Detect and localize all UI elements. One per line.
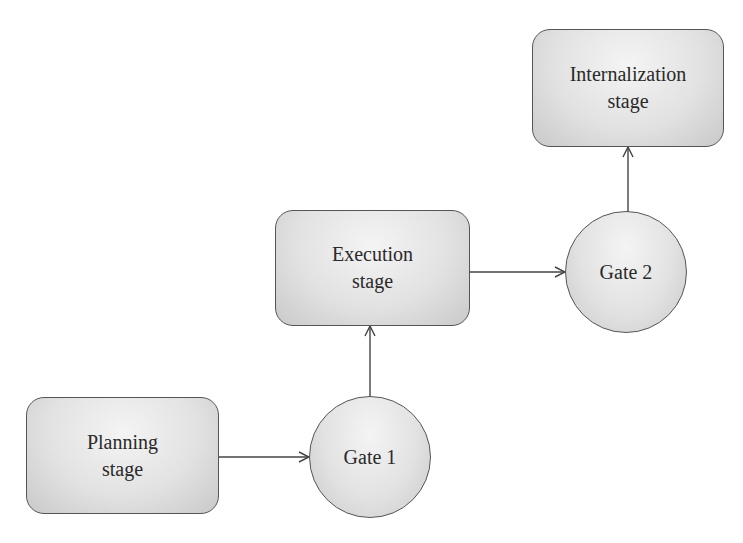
gate-2-label: Gate 2 bbox=[600, 259, 653, 286]
internalization-stage-label-line2: stage bbox=[607, 88, 648, 115]
execution-stage-label-line2: stage bbox=[352, 268, 393, 295]
gate-1-label: Gate 1 bbox=[344, 444, 397, 471]
planning-stage-label-line1: Planning bbox=[87, 429, 158, 456]
planning-stage-label-line2: stage bbox=[102, 456, 143, 483]
execution-stage-label-line1: Execution bbox=[332, 241, 413, 268]
internalization-stage-node: Internalization stage bbox=[532, 29, 724, 147]
execution-stage-node: Execution stage bbox=[275, 210, 470, 326]
gate-2-node: Gate 2 bbox=[565, 211, 687, 333]
internalization-stage-label-line1: Internalization bbox=[570, 61, 687, 88]
gate-1-node: Gate 1 bbox=[309, 396, 431, 518]
planning-stage-node: Planning stage bbox=[26, 397, 219, 514]
